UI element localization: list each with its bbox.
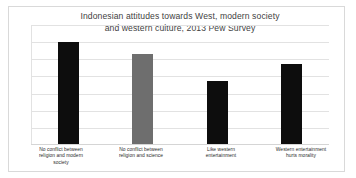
category-label: No conflict betweenreligion and science [101, 147, 181, 160]
x-axis-line [31, 144, 329, 145]
bar [281, 64, 302, 144]
category-axis-labels: No conflict betweenreligion and modernso… [21, 147, 341, 177]
bar [132, 54, 153, 144]
bar [207, 81, 228, 144]
chart-title-line-1: Indonesian attitudes towards West, moder… [39, 11, 321, 23]
bar-series [31, 25, 329, 144]
category-label-line: hurts morality [261, 153, 341, 159]
category-label: No conflict betweenreligion and modernso… [21, 147, 101, 166]
category-label-line: religion and science [101, 153, 181, 159]
category-label-line: entertainment [181, 153, 261, 159]
category-label: Like westernentertainment [181, 147, 261, 160]
plot-area [31, 25, 329, 145]
chart-frame: Indonesian attitudes towards West, moder… [8, 6, 345, 172]
category-label: Western entertainmenthurts morality [261, 147, 341, 160]
bar-chart-figure: Indonesian attitudes towards West, moder… [0, 0, 356, 178]
bar [58, 42, 79, 144]
category-label-line: society [21, 160, 101, 166]
